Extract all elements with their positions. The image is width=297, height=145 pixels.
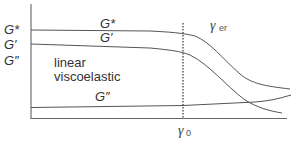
y-label-g-prime: G′ (4, 37, 17, 52)
region-label-viscoelastic: viscoelastic (54, 69, 121, 84)
region-label-linear: linear (54, 55, 86, 70)
gamma-er-subscript: er (219, 23, 227, 33)
y-label-g-double-prime: G″ (4, 53, 19, 68)
viscoelastic-diagram: G* G′ G″ G* G′ G″ linear viscoelastic γ … (0, 0, 297, 145)
curve-label-g-prime: G′ (100, 30, 113, 45)
curve-label-g-star: G* (100, 16, 116, 31)
g-double-prime-curve (31, 95, 291, 108)
gamma-0-symbol: γ (178, 123, 184, 138)
y-label-g-star: G* (4, 22, 20, 37)
gamma-0-subscript: 0 (186, 128, 191, 138)
gamma-er-symbol: γ (210, 18, 216, 33)
curve-label-g-double-prime: G″ (95, 89, 110, 104)
